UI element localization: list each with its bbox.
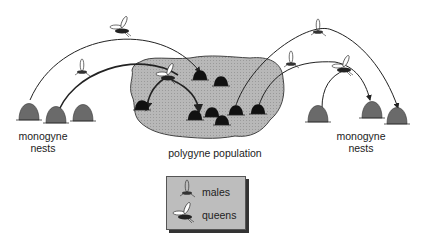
left-nests-label: monogyne nests [12, 130, 74, 154]
queen-ant-icon [332, 55, 353, 76]
legend-icons [171, 177, 201, 229]
queen-ant-icon [173, 202, 194, 223]
legend-label-males: males [202, 186, 230, 198]
legend: males queens [166, 176, 246, 230]
left-monogyne-nests [16, 104, 96, 124]
male-ant-icon [311, 19, 326, 36]
male-ant-icon [75, 59, 90, 76]
polygyne-population-label: polygyne population [160, 147, 270, 159]
polygyne-population-area [131, 56, 284, 138]
label-line: monogyne [330, 130, 392, 142]
right-monogyne-nests [305, 102, 410, 125]
legend-label-queens: queens [202, 209, 236, 221]
male-ant-icon [180, 180, 195, 197]
queen-ant-icon [110, 16, 131, 37]
right-nests-label: monogyne nests [330, 130, 392, 154]
male-ant-icon [284, 51, 299, 68]
label-line: monogyne [12, 130, 74, 142]
label-line: nests [12, 142, 74, 154]
label-line: nests [330, 142, 392, 154]
